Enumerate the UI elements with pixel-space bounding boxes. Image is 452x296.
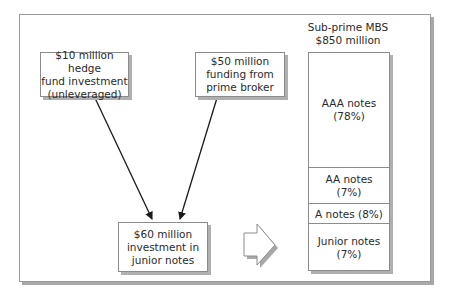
box-text-line: prime broker (206, 81, 274, 94)
mbs-amount: $850 million (300, 34, 396, 47)
mbs-title-line: Sub-prime MBS (300, 21, 396, 34)
arrow-broker-to-junior (180, 98, 217, 219)
tranche-junior: Junior notes (7%) (309, 223, 389, 271)
box-text-line: (unleveraged) (41, 88, 128, 101)
tranche-label: AA notes (325, 173, 372, 186)
box-text-line: investment in (127, 241, 199, 254)
tranche-pct: (78%) (333, 110, 365, 123)
mbs-tranche-stack: AAA notes (78%) AA notes (7%) A notes (8… (308, 52, 390, 271)
hedge-fund-investment-box: $10 million hedge fund investment (unlev… (40, 52, 129, 97)
box-text-line: junior notes (127, 254, 199, 267)
tranche-pct: (7%) (337, 248, 362, 261)
block-arrow-icon (244, 224, 278, 268)
tranche-label: Junior notes (318, 235, 381, 248)
tranche-label: A notes (8%) (315, 208, 383, 221)
tranche-pct: (7%) (337, 186, 362, 199)
box-text-line: fund investment (41, 75, 128, 88)
prime-broker-funding-box: $50 million funding from prime broker (195, 52, 285, 97)
arrow-hedge-to-junior (95, 98, 152, 219)
tranche-aaa: AAA notes (78%) (309, 53, 389, 167)
tranche-label: AAA notes (322, 97, 377, 110)
tranche-aa: AA notes (7%) (309, 167, 389, 203)
mbs-title: Sub-prime MBS $850 million (300, 21, 396, 47)
box-text-line: funding from (206, 68, 274, 81)
box-text-line: $50 million (206, 55, 274, 68)
box-text-line: $60 million (127, 228, 199, 241)
junior-notes-investment-box: $60 million investment in junior notes (118, 222, 208, 272)
tranche-a: A notes (8%) (309, 203, 389, 224)
box-text-line: $10 million hedge (41, 49, 128, 75)
